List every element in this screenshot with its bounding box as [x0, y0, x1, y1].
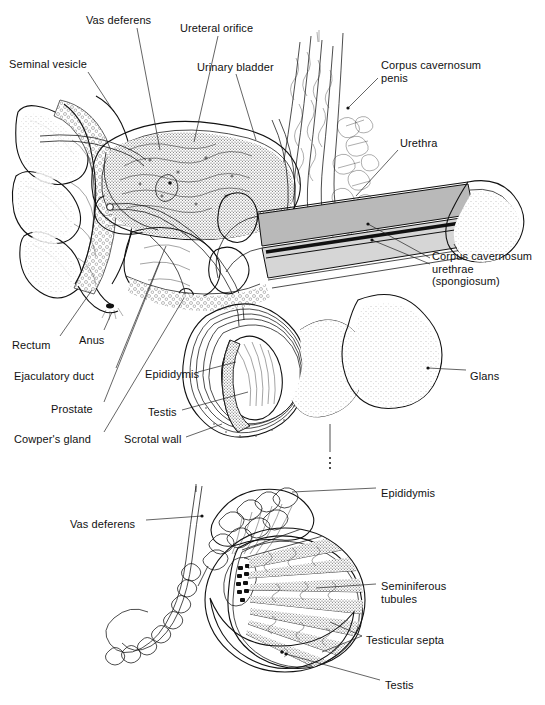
label-seminiferous-tubules: Seminiferous tubules: [381, 580, 446, 605]
label-cowpers-gland: Cowper's gland: [14, 433, 91, 446]
label-epididymis-lower: Epididymis: [381, 487, 435, 500]
testis-lower-structure: [205, 528, 366, 672]
label-seminal-vesicle: Seminal vesicle: [9, 58, 87, 71]
label-testis-lower: Testis: [385, 679, 414, 692]
label-epididymis-upper: Epididymis: [145, 368, 199, 381]
label-urinary-bladder: Urinary bladder: [197, 61, 274, 74]
label-glans: Glans: [470, 370, 499, 383]
label-urethra: Urethra: [400, 137, 437, 150]
label-testis-upper: Testis: [148, 406, 177, 419]
label-ureteral-orifice: Ureteral orifice: [180, 22, 253, 35]
label-anus: Anus: [79, 334, 104, 347]
vas-deferens-lower-structure: [105, 484, 202, 665]
label-scrotal-wall: Scrotal wall: [124, 433, 181, 446]
label-corpus-cavernosum-penis: Corpus cavernosum penis: [381, 59, 481, 84]
label-rectum: Rectum: [12, 339, 51, 352]
anatomy-figure: [0, 0, 545, 705]
figure-connector: [329, 424, 331, 469]
label-corpus-cavernosum-urethrae: Corpus cavernosum urethrae (spongiosum): [432, 250, 532, 288]
view-testis-detail: [105, 484, 366, 672]
label-prostate: Prostate: [51, 403, 93, 416]
label-vas-deferens: Vas deferens: [86, 14, 151, 27]
label-vas-deferens-lower: Vas deferens: [70, 518, 135, 531]
label-ejaculatory-duct: Ejaculatory duct: [14, 370, 94, 383]
label-testicular-septa: Testicular septa: [366, 634, 444, 647]
